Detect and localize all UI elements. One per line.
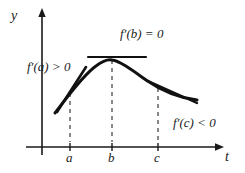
y-axis — [38, 8, 45, 155]
y-axis-label: y — [11, 9, 17, 23]
annotation-slope-at-b: f′(b) = 0 — [120, 27, 163, 40]
derivative-sign-diagram: y t a b c f′(a) > 0 f′(b) = 0 f′(c) < 0 — [0, 0, 245, 173]
annotation-slope-at-a: f′(a) > 0 — [27, 60, 70, 73]
annotation-slope-at-c: f′(c) < 0 — [173, 116, 216, 129]
tick-label-a: a — [66, 151, 73, 164]
tangent-line-c — [148, 81, 197, 103]
x-axis — [26, 143, 224, 150]
t-axis-label: t — [225, 150, 229, 164]
tick-label-b: b — [108, 151, 115, 164]
function-curve — [55, 60, 197, 113]
tick-label-c: c — [154, 151, 160, 164]
